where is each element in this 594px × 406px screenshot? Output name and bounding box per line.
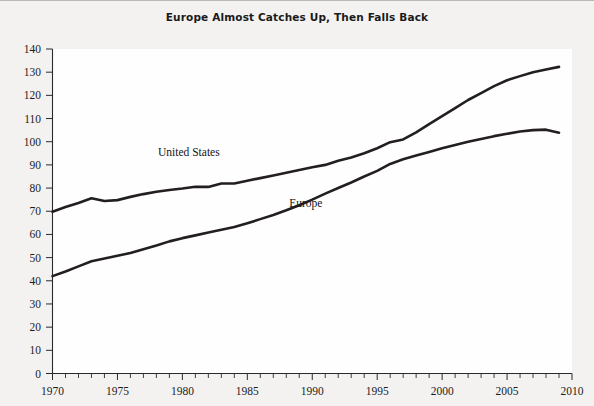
series-label-europe: Europe [289, 197, 322, 210]
y-tick-label-90: 90 [30, 159, 42, 171]
y-tick-label-50: 50 [30, 252, 42, 264]
line-chart-plot: 0102030405060708090100110120130140 19701… [0, 1, 594, 406]
series-label-united-states: United States [158, 146, 220, 158]
x-tick-label-2005: 2005 [496, 385, 519, 397]
y-tick-label-100: 100 [24, 136, 42, 148]
y-axis: 0102030405060708090100110120130140 [24, 43, 53, 380]
x-tick-label-1980: 1980 [171, 385, 194, 397]
chart-figure: Europe Almost Catches Up, Then Falls Bac… [0, 0, 594, 406]
y-tick-label-70: 70 [30, 205, 42, 217]
y-tick-label-110: 110 [24, 113, 41, 125]
y-tick-label-40: 40 [30, 275, 42, 287]
x-axis: 197019751980198519901995200020052010 [41, 374, 584, 398]
x-tick-label-1970: 1970 [41, 385, 64, 397]
y-tick-label-20: 20 [30, 321, 42, 333]
y-tick-label-0: 0 [35, 368, 41, 380]
x-tick-label-1990: 1990 [301, 385, 324, 397]
y-tick-label-130: 130 [24, 66, 42, 78]
x-tick-label-1975: 1975 [106, 385, 129, 397]
x-tick-label-1995: 1995 [366, 385, 389, 397]
x-tick-label-1985: 1985 [236, 385, 259, 397]
y-tick-label-80: 80 [30, 182, 42, 194]
y-tick-label-140: 140 [24, 43, 42, 55]
plot-background [52, 49, 572, 373]
y-tick-label-10: 10 [30, 344, 42, 356]
y-tick-label-120: 120 [24, 89, 42, 101]
x-tick-label-2010: 2010 [561, 385, 584, 397]
y-tick-label-30: 30 [30, 298, 42, 310]
x-tick-label-2000: 2000 [431, 385, 454, 397]
y-tick-label-60: 60 [30, 228, 42, 240]
